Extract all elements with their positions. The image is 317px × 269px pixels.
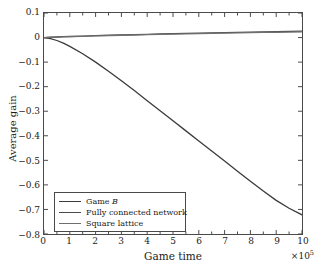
- legend-line-swatch: [59, 212, 81, 213]
- legend-item[interactable]: Square lattice: [59, 218, 181, 229]
- legend-item[interactable]: Game B: [59, 196, 181, 207]
- x-tick-label: 0: [40, 237, 46, 246]
- x-axis-tick-labels: 012345678910: [0, 237, 317, 251]
- x-offset-base: ×10: [291, 251, 310, 261]
- x-axis-offset-exponent: ×105: [291, 249, 314, 261]
- x-tick-label: 10: [297, 237, 308, 246]
- x-axis-title: Game time: [43, 250, 303, 262]
- y-tick-label: −0.2: [18, 82, 40, 91]
- series-line: [44, 32, 302, 38]
- legend-label: Square lattice: [86, 220, 143, 228]
- figure-canvas: 0.10−0.1−0.2−0.3−0.4−0.5−0.6−0.7−0.8 012…: [0, 0, 317, 269]
- x-tick-label: 6: [196, 237, 202, 246]
- y-tick-label: −0.3: [18, 107, 40, 116]
- y-axis-title: Average gain: [7, 69, 18, 189]
- y-tick-label: −0.5: [18, 156, 40, 165]
- y-tick-label: 0.1: [26, 8, 40, 17]
- x-tick-label: 5: [170, 237, 176, 246]
- x-offset-power: 5: [310, 249, 314, 257]
- legend-label: Fully connected network: [86, 209, 187, 217]
- y-tick-label: −0.7: [18, 206, 40, 215]
- x-tick-label: 2: [92, 237, 98, 246]
- data-series-layer: [44, 31, 302, 215]
- x-tick-label: 7: [222, 237, 228, 246]
- legend-item[interactable]: Fully connected network: [59, 207, 181, 218]
- legend-label: Game B: [86, 198, 118, 206]
- y-tick-label: 0: [34, 32, 40, 41]
- legend-line-swatch: [59, 201, 81, 202]
- x-tick-label: 1: [66, 237, 72, 246]
- y-tick-label: −0.4: [18, 131, 40, 140]
- legend-box: Game BFully connected networkSquare latt…: [54, 192, 186, 232]
- y-tick-label: −0.6: [18, 181, 40, 190]
- x-tick-label: 9: [274, 237, 280, 246]
- x-tick-label: 8: [248, 237, 254, 246]
- x-tick-label: 4: [144, 237, 150, 246]
- x-tick-label: 3: [118, 237, 124, 246]
- y-tick-label: −0.1: [18, 57, 40, 66]
- series-line: [44, 38, 302, 215]
- legend-line-swatch: [59, 223, 81, 224]
- legend-label-italic: B: [112, 197, 118, 206]
